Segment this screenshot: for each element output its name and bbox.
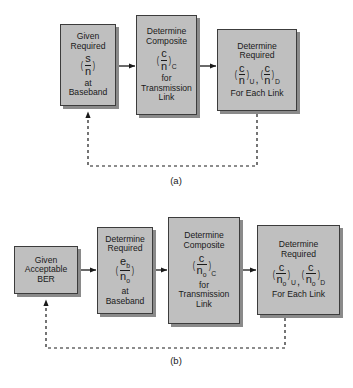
box-b2-line-2: Required (108, 244, 143, 254)
subscript-downlink: D (320, 279, 325, 288)
formula-separator: , (297, 275, 300, 288)
denominator-subscript: o (312, 280, 316, 287)
subscript-uplink: U (291, 279, 296, 288)
box-determine-required-ebno: Determine Required ( eb no ) at Baseband (97, 227, 153, 314)
fraction: s n (84, 53, 92, 76)
paren-right: ) (132, 265, 134, 276)
formula-s-over-n: ( s n ) (80, 53, 95, 76)
paren-right: ) (288, 269, 290, 280)
figure-canvas: Given Required ( s n ) at Baseband Deter… (0, 0, 353, 388)
formula-pair-cno-uplink-downlink: ( c no ) U , ( c no ) D (272, 262, 325, 288)
fraction: c no (196, 253, 208, 279)
denominator: no (306, 273, 316, 288)
paren-left: ( (272, 269, 274, 280)
paren-right-2: ) (317, 269, 319, 280)
paren-left: ( (193, 260, 195, 271)
denominator: no (276, 273, 286, 288)
paren-left: ( (116, 265, 118, 276)
denominator: n (161, 60, 167, 72)
formula-subscript: C (211, 270, 216, 279)
formula-subscript: C (172, 63, 177, 72)
formula-separator: , (255, 73, 258, 86)
box-determine-composite-cno: Determine Composite ( c no ) C for Trans… (168, 217, 240, 324)
formula-eb-over-no: ( eb no ) (115, 256, 134, 285)
fraction-uplink: c n (238, 63, 246, 86)
box-a2-line-5: Link (159, 93, 175, 103)
numerator: c (279, 262, 285, 273)
fraction: eb no (119, 256, 131, 285)
box-b2-line-4: Baseband (106, 297, 145, 307)
numerator: c (161, 48, 167, 59)
fraction: c n (160, 48, 168, 71)
paren-right: ) (247, 69, 249, 80)
fraction-downlink: c n (263, 63, 271, 86)
box-a2-line-2: Composite (146, 37, 187, 47)
connector-b4-b1-feedback (46, 300, 285, 348)
denominator: n (264, 74, 270, 86)
denominator: no (120, 270, 130, 285)
paren-left-2: ( (302, 269, 304, 280)
box-b3-line-5: Link (196, 300, 212, 310)
formula-pair-uplink-downlink: ( c n ) U , ( c n ) D (234, 63, 280, 86)
box-determine-required-cno-per-link: Determine Required ( c no ) U , ( c no )… (257, 225, 340, 315)
box-a1-line-4: Baseband (69, 88, 108, 98)
paren-left: ( (81, 60, 83, 71)
box-b1-line-3: BER (37, 275, 55, 285)
fraction-uplink: c no (275, 262, 287, 288)
paren-right: ) (169, 55, 171, 66)
box-given-acceptable-ber: Given Acceptable BER (14, 246, 78, 294)
paren-left: ( (235, 69, 237, 80)
denominator: n (239, 74, 245, 86)
box-a1-line-2: Required (71, 42, 106, 52)
numerator-subscript: b (126, 262, 130, 269)
fraction-downlink: c no (305, 262, 317, 288)
numerator: c (265, 63, 271, 74)
box-a3-line-2: Required (240, 51, 275, 61)
paren-right-2: ) (272, 69, 274, 80)
box-b3-line-2: Composite (183, 241, 224, 251)
paren-left-2: ( (260, 69, 262, 80)
denominator: no (197, 264, 207, 279)
box-a3-line-3: For Each Link (230, 89, 283, 99)
denominator-subscript: o (126, 277, 130, 284)
connector-a3-a1-feedback (88, 112, 257, 166)
numerator: s (85, 53, 91, 64)
numerator: eb (120, 256, 130, 270)
paren-right: ) (208, 260, 210, 271)
box-determine-composite-cn: Determine Composite ( c n ) C for Transm… (136, 15, 197, 115)
caption-panel-a: (a) (146, 175, 206, 186)
formula-c-over-no-composite: ( c no ) C (192, 253, 216, 279)
box-determine-required-per-link: Determine Required ( c n ) U , ( c n ) D… (217, 29, 297, 111)
denominator: n (85, 65, 91, 77)
box-b4-line-2: Required (281, 250, 316, 260)
caption-panel-b: (b) (146, 355, 206, 366)
subscript-uplink: U (250, 78, 255, 87)
denominator-subscript: o (283, 280, 287, 287)
box-given-required-sn: Given Required ( s n ) at Baseband (60, 24, 116, 106)
numerator: c (308, 262, 314, 273)
subscript-downlink: D (275, 78, 280, 87)
numerator: c (199, 253, 205, 264)
paren-right: ) (93, 60, 95, 71)
numerator: c (239, 63, 245, 74)
formula-c-over-n-composite: ( c n ) C (156, 48, 176, 71)
paren-left: ( (157, 55, 159, 66)
box-b4-line-3: For Each Link (272, 290, 325, 300)
denominator-subscript: o (203, 271, 207, 278)
